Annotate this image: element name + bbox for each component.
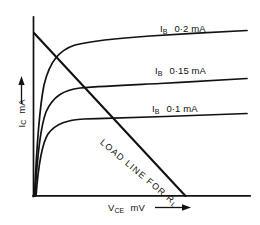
curve-label-ib-0-1: IB0·1 mA xyxy=(152,104,198,115)
figure-canvas: IB0·2 mA IB0·15 mA IB0·1 mA LOAD LINE FO… xyxy=(0,0,260,225)
curve-label-subscript: B xyxy=(155,108,160,115)
x-axis-subscript: CE xyxy=(114,207,124,214)
y-axis-symbol: I xyxy=(16,125,27,128)
curve-label-value: 0·15 xyxy=(169,65,188,76)
characteristic-curves-plot xyxy=(0,0,260,225)
curve-label-unit: mA xyxy=(191,23,205,34)
x-axis-label: VCEmV xyxy=(108,203,145,214)
curve-label-subscript: B xyxy=(163,28,168,35)
curve-label-value: 0·1 xyxy=(166,103,180,114)
curve-ib-0-1 xyxy=(36,114,247,197)
curve-label-ib-0-15: IB0·15 mA xyxy=(155,66,206,77)
curve-label-value: 0·2 xyxy=(174,23,188,34)
x-axis-unit: mV xyxy=(130,202,144,213)
right-arrow-icon xyxy=(182,204,191,210)
curve-label-subscript: B xyxy=(158,70,163,77)
curve-label-unit: mA xyxy=(183,103,197,114)
curve-label-ib-0-2: IB0·2 mA xyxy=(160,24,206,35)
y-axis-unit: mA xyxy=(16,99,27,113)
curve-label-unit: mA xyxy=(192,65,206,76)
y-axis-label: ICmA xyxy=(17,83,28,143)
y-axis-subscript: C xyxy=(20,120,27,125)
